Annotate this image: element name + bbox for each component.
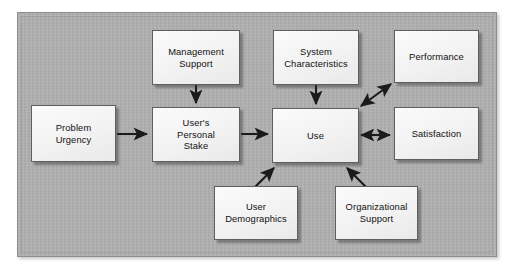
node-problem-urgency[interactable]: Problem Urgency — [31, 105, 116, 162]
node-user-demographics[interactable]: User Demographics — [214, 186, 298, 240]
node-users-personal-stake[interactable]: User's Personal Stake — [152, 107, 240, 162]
node-label-users-personal-stake: User's Personal Stake — [175, 117, 217, 152]
node-label-management-support: Management Support — [166, 46, 226, 69]
node-label-satisfaction: Satisfaction — [410, 128, 464, 140]
node-label-organizational-support: Organizational Support — [344, 201, 410, 224]
node-label-performance: Performance — [407, 51, 466, 63]
node-management-support[interactable]: Management Support — [152, 30, 240, 85]
node-organizational-support[interactable]: Organizational Support — [335, 186, 418, 240]
node-system-characteristics[interactable]: System Characteristics — [273, 30, 359, 85]
node-performance[interactable]: Performance — [394, 30, 479, 83]
node-use[interactable]: Use — [272, 108, 359, 163]
node-label-system-characteristics: System Characteristics — [282, 46, 350, 69]
node-satisfaction[interactable]: Satisfaction — [394, 107, 479, 160]
diagram-canvas: Problem Urgency Management Support User'… — [0, 0, 513, 269]
node-label-use: Use — [305, 130, 326, 142]
node-label-problem-urgency: Problem Urgency — [54, 122, 94, 145]
node-label-user-demographics: User Demographics — [223, 201, 289, 224]
